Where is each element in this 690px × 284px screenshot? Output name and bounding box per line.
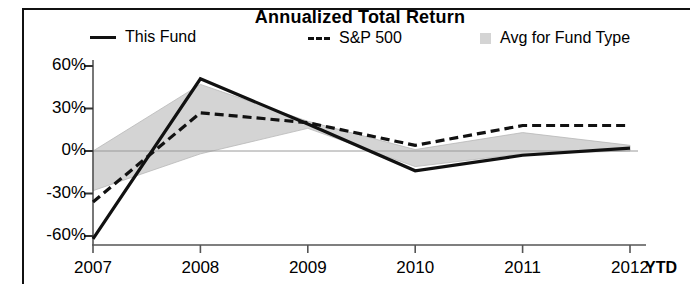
x-axis-tick-label: 2009 xyxy=(273,258,343,278)
x-axis-tick-label: 2011 xyxy=(488,258,558,278)
x-axis-tick-label: 2008 xyxy=(165,258,235,278)
y-axis-tick-label: -60% xyxy=(24,225,86,245)
x-axis-tick-label: 2007 xyxy=(58,258,128,278)
series-area-avg-for-fund-type xyxy=(93,84,630,190)
y-axis-tick-label: -30% xyxy=(24,183,86,203)
annualized-total-return-chart: Annualized Total Return This Fund S&P 50… xyxy=(0,0,690,284)
plot-area xyxy=(0,0,690,284)
y-axis-tick-label: 60% xyxy=(24,55,86,75)
y-axis-tick-label: 30% xyxy=(24,98,86,118)
y-axis-tick-label: 0% xyxy=(24,140,86,160)
x-axis-tick-label: 2010 xyxy=(380,258,450,278)
x-axis-ytd-label: YTD xyxy=(645,259,677,277)
